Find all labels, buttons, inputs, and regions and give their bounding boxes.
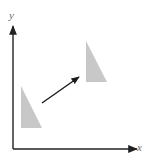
translation-arrow-icon — [42, 77, 79, 103]
y-axis-label: y — [9, 10, 14, 21]
x-axis-label: x — [137, 142, 142, 153]
translation-diagram — [0, 0, 154, 162]
translated-triangle — [86, 41, 107, 82]
original-triangle — [21, 86, 42, 128]
